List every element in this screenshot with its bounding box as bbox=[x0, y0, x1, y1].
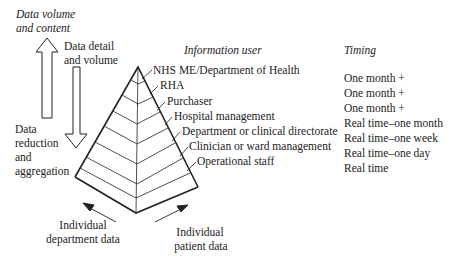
label-aggregation: aggregation bbox=[15, 165, 69, 178]
user-level-7: Operational staff bbox=[197, 155, 274, 168]
timing-level-5: Real time–one week bbox=[344, 132, 438, 145]
user-level-5: Department or clinical directorate bbox=[182, 125, 338, 138]
label-data-volume: Data volume bbox=[16, 8, 75, 21]
label-individual-patient: Individual bbox=[170, 226, 230, 239]
user-level-3: Purchaser bbox=[167, 95, 212, 108]
label-and-content: and content bbox=[16, 22, 70, 35]
user-level-1: NHS ME/Department of Health bbox=[153, 64, 300, 77]
label-and: and bbox=[15, 151, 32, 164]
label-reduction: reduction bbox=[15, 137, 58, 150]
timing-level-7: Real time bbox=[344, 162, 388, 175]
timing-level-2: One month + bbox=[344, 87, 405, 100]
label-individual-dept: Individual bbox=[53, 219, 113, 232]
timing-level-6: Real time–one day bbox=[344, 147, 430, 160]
user-level-4: Hospital management bbox=[174, 110, 275, 123]
label-data-detail: Data detail bbox=[64, 40, 114, 53]
down-arrow-icon bbox=[65, 67, 87, 148]
timing-level-4: Real time–one month bbox=[344, 117, 443, 130]
user-level-6: Clinician or ward management bbox=[189, 140, 331, 153]
timing-level-1: One month + bbox=[344, 72, 405, 85]
label-and-volume: and volume bbox=[64, 54, 118, 67]
user-level-2: RHA bbox=[160, 79, 184, 92]
label-data: Data bbox=[15, 123, 37, 136]
arrow-head-right-icon bbox=[177, 205, 188, 212]
label-patient-data: patient data bbox=[165, 240, 237, 253]
header-timing: Timing bbox=[344, 44, 376, 57]
label-department-data: department data bbox=[37, 233, 129, 246]
timing-level-3: One month + bbox=[344, 102, 405, 115]
up-arrow-icon bbox=[36, 38, 58, 118]
header-information-user: Information user bbox=[184, 44, 262, 57]
